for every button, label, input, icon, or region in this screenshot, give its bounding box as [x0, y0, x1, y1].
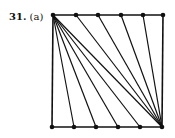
vertex-point-top [161, 13, 166, 18]
vertex-point-top [74, 13, 79, 18]
vertex-point-top [141, 13, 146, 18]
vertex-point-bottom [94, 125, 99, 130]
square-edge-left [52, 15, 53, 127]
vertex-point-top [96, 13, 101, 18]
vertex-point-bottom [138, 125, 143, 130]
vertex-point-top [51, 13, 56, 18]
vertex-point-top [119, 13, 124, 18]
vertex-point-bottom [50, 125, 55, 130]
vertex-point-bottom [116, 125, 121, 130]
fan-segment-bottom-right [76, 15, 162, 127]
vertex-point-bottom [160, 125, 165, 130]
triangulated-square-diagram [0, 0, 175, 138]
fan-segment-top-left [53, 15, 74, 127]
vertex-point-bottom [72, 125, 77, 130]
square-edge-right [162, 15, 163, 127]
